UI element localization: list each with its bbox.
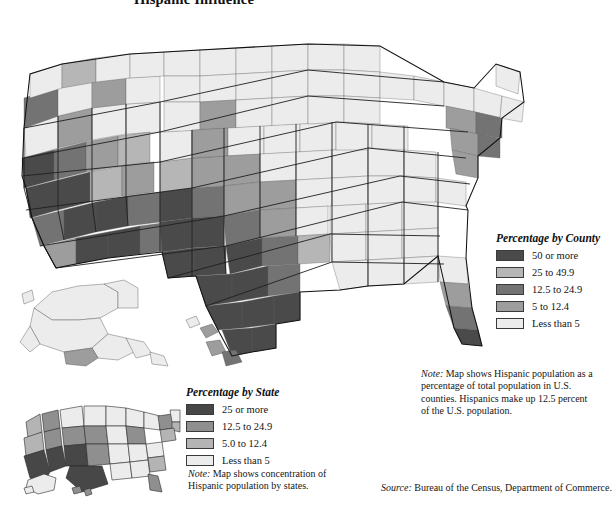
state-nm (64, 444, 88, 466)
state-nd (84, 406, 106, 426)
legend-label: 25 or more (222, 404, 268, 415)
state-ks-ok (86, 444, 110, 466)
county-note: Note: Map shows Hispanic population as a… (421, 368, 597, 418)
state-ky-tn (128, 444, 148, 462)
legend-item[interactable]: 25 or more (186, 402, 279, 416)
legend-label: Less than 5 (222, 455, 270, 466)
legend-item[interactable]: Less than 5 (186, 453, 279, 467)
swatch-12-5-to-24-9 (496, 284, 524, 295)
swatch-50-or-more (496, 250, 524, 261)
state-inset-shapes (24, 406, 180, 496)
state-mi (144, 412, 160, 430)
region-northern-plains (164, 44, 308, 132)
state-note-lead: Note: (188, 468, 210, 479)
state-nc-sc (148, 456, 166, 472)
swatch-5-to-12-4 (496, 301, 524, 312)
source-lead: Source: (381, 482, 412, 493)
state-swatch-25-or-more (186, 404, 214, 415)
legend-item[interactable]: 25 to 49.9 (496, 265, 600, 279)
state-legend-title: Percentage by State (186, 386, 279, 398)
state-swatch-12-5-to-24-9 (186, 421, 214, 432)
swatch-less-than-5 (496, 318, 524, 329)
state-pa-nj (160, 428, 176, 442)
state-fl (148, 474, 162, 492)
state-wy-ut (62, 426, 86, 446)
legend-label: 25 to 49.9 (532, 267, 574, 278)
state-swatch-5-0-to-12-4 (186, 438, 214, 449)
legend-label: 12.5 to 24.9 (532, 284, 582, 295)
state-va-wv (146, 442, 164, 458)
state-sd-ne (84, 426, 108, 444)
legend-label: 12.5 to 24.9 (222, 421, 272, 432)
state-al-ga (130, 460, 150, 478)
county-legend-title: Percentage by County (496, 232, 600, 244)
source-text: Bureau of the Census, Department of Comm… (412, 482, 612, 493)
source-line: Source: Bureau of the Census, Department… (381, 482, 612, 493)
state-ia-il (106, 426, 128, 444)
state-inset-map[interactable] (12, 388, 184, 500)
state-az (46, 446, 66, 472)
state-la-ms (110, 462, 132, 480)
state-note: Note: Map shows concentration of Hispani… (188, 468, 348, 493)
swatch-25-to-49-9 (496, 267, 524, 278)
state-mn (106, 406, 126, 426)
legend-item[interactable]: 12.5 to 24.9 (496, 282, 600, 296)
state-me (170, 410, 180, 422)
legend-label: 5 to 12.4 (532, 301, 569, 312)
legend-item[interactable]: 5.0 to 12.4 (186, 436, 279, 450)
state-legend: Percentage by State 25 or more 12.5 to 2… (186, 386, 279, 470)
page-title: Hispanic Influence (134, 0, 254, 8)
state-swatch-less-than-5 (186, 455, 214, 466)
state-wi (126, 408, 144, 428)
state-inset-svg[interactable] (12, 388, 184, 500)
state-ak-tail (24, 486, 34, 494)
county-note-text: Map shows Hispanic population as a perce… (421, 368, 593, 416)
county-legend: Percentage by County 50 or more 25 to 49… (496, 232, 600, 333)
legend-label: Less than 5 (532, 318, 580, 329)
county-note-lead: Note: (421, 368, 443, 379)
state-mo-ar (108, 444, 130, 464)
legend-item[interactable]: 50 or more (496, 248, 600, 262)
state-in-oh (126, 426, 146, 444)
legend-item[interactable]: 12.5 to 24.9 (186, 419, 279, 433)
legend-label: 5.0 to 12.4 (222, 438, 267, 449)
state-hi (72, 486, 82, 494)
state-mt (60, 406, 84, 428)
legend-item[interactable]: 5 to 12.4 (496, 299, 600, 313)
legend-item[interactable]: Less than 5 (496, 316, 600, 330)
legend-label: 50 or more (532, 250, 578, 261)
